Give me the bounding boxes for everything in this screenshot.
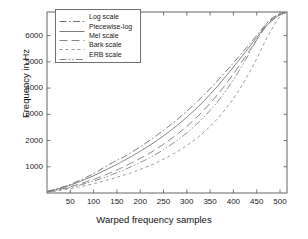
legend-item-label: Bark scale (89, 40, 122, 49)
y-tick-label: 1000 (10, 163, 43, 171)
legend-item-mel-scale[interactable]: Mel scale (59, 31, 137, 40)
legend-item-piecewise-log[interactable]: Piecewise-log (59, 21, 137, 30)
legend-item-log-scale[interactable]: Log scale (59, 12, 137, 21)
legend-line-sample-icon (59, 22, 85, 31)
chart-legend: Log scalePiecewise-logMel scaleBark scal… (55, 9, 141, 63)
legend-item-erb-scale[interactable]: ERB scale (59, 50, 137, 59)
x-axis-label: Warped frequency samples (0, 214, 308, 225)
legend-line-sample-icon (59, 31, 85, 40)
x-tick-label: 500 (266, 198, 294, 206)
legend-item-label: Log scale (89, 12, 119, 21)
legend-line-sample-icon (59, 12, 85, 21)
legend-item-label: Mel scale (89, 31, 119, 40)
legend-item-label: Piecewise-log (89, 22, 132, 31)
legend-item-label: ERB scale (89, 50, 122, 59)
chart-figure: 100020003000400050006000 501001502002503… (0, 0, 308, 239)
legend-line-sample-icon (59, 50, 85, 59)
legend-line-sample-icon (59, 40, 85, 49)
legend-item-bark-scale[interactable]: Bark scale (59, 40, 137, 49)
y-axis-label: Frequency in Hz (20, 14, 31, 154)
